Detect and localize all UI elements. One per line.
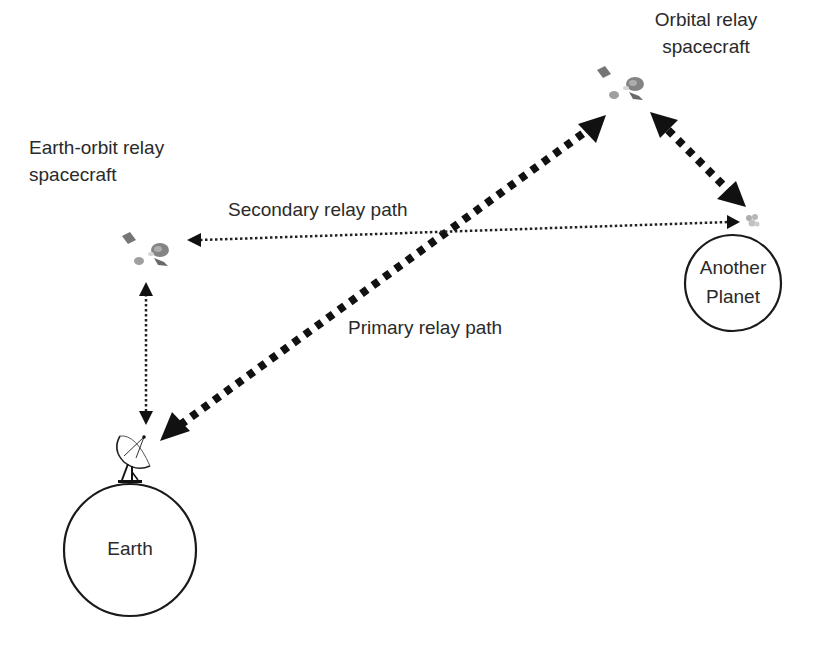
lander-icon [746,214,760,227]
orbital-relay-label-line1: Orbital relay [643,6,769,33]
orbital-relay-label: Orbital relay spacecraft [643,6,769,60]
orbital-to-planet-arrow [650,112,746,207]
satellite-icon [597,66,644,100]
another-planet-label-line1: Another [683,253,783,282]
primary-relay-path-label: Primary relay path [348,314,502,341]
earth-orbit-relay-label: Earth-orbit relay spacecraft [29,134,164,188]
primary-relay-path-arrow [160,115,606,441]
another-planet-label-line2: Planet [683,282,783,311]
earth-orbit-relay-label-line2: spacecraft [29,161,164,188]
another-planet-label: Another Planet [683,253,783,311]
dish-antenna-icon [117,435,150,483]
earth-label: Earth [80,535,180,562]
satellite-icon [122,232,169,266]
earth-orbit-relay-label-line1: Earth-orbit relay [29,134,164,161]
earth-orbit-to-ground-arrow [139,282,153,425]
orbital-relay-label-line2: spacecraft [643,33,769,60]
secondary-relay-path-label: Secondary relay path [228,196,408,223]
